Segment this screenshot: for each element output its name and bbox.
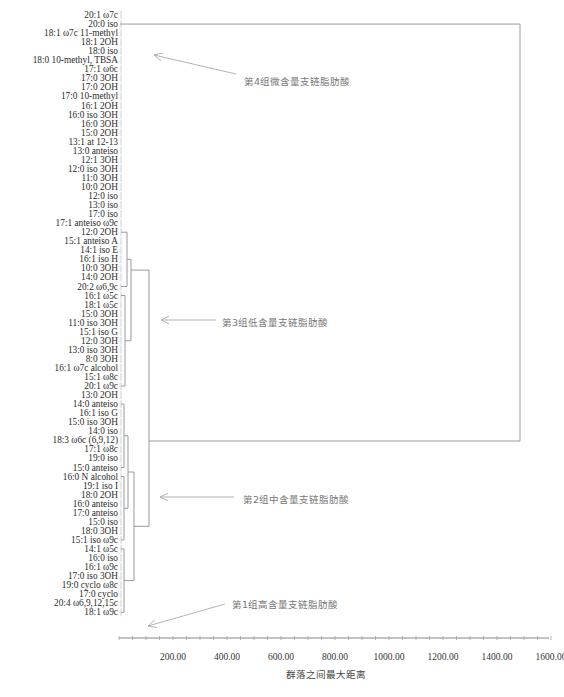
x-tick-label: 1600.00 [536,652,564,662]
annotation-group1: 第1组高含量支链脂肪酸 [232,597,338,611]
leaf-label: 18:1 ω9c [84,607,118,617]
annotation-group4: 第4组微含量支链脂肪酸 [244,74,350,88]
x-tick-label: 200.00 [160,652,186,662]
x-tick-label: 400.00 [214,652,240,662]
x-tick-label: 800.00 [322,652,348,662]
annotation-group2: 第2组中含量支链脂肪酸 [243,492,349,506]
x-axis-title: 群落之间最大距离 [286,667,366,681]
x-tick-label: 1000.00 [374,652,405,662]
x-tick-label: 1200.00 [428,652,459,662]
x-tick-label: 1400.00 [482,652,513,662]
dendrogram-chart: 20:1 ω7c20:0 iso18:1 ω7c 11-methyl18:1 2… [0,0,564,697]
x-tick-label: 600.00 [268,652,294,662]
annotation-group3: 第3组低含量支链脂肪酸 [222,315,328,329]
